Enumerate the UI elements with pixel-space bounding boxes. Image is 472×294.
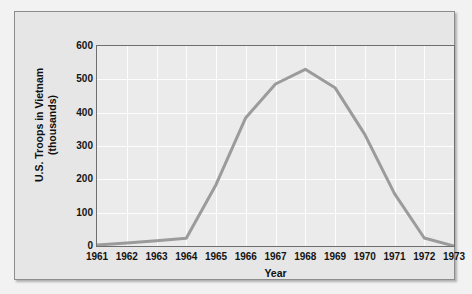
y-axis-title-line-1: U.S. Troops in Vietnam: [33, 68, 45, 182]
y-axis-tick-label: 200: [65, 174, 93, 184]
y-axis-title: U.S. Troops in Vietnam (thousands): [33, 35, 59, 215]
y-axis-tick-label: 300: [65, 141, 93, 151]
y-axis-title-line-2: (thousands): [46, 35, 59, 215]
y-axis-tick-label: 500: [65, 74, 93, 84]
y-axis-tick-label: 400: [65, 108, 93, 118]
x-axis-title: Year: [96, 267, 455, 279]
y-axis-tick-label: 0: [65, 241, 93, 251]
y-axis-tick-label: 600: [65, 41, 93, 51]
x-axis-tick-labels: 1961196219631964196519661967196819691970…: [96, 251, 455, 265]
y-axis-tick-label: 100: [65, 208, 93, 218]
plot-area: [96, 45, 455, 247]
x-axis-tick-label: 1973: [434, 251, 472, 262]
figure-canvas: 0100200300400500600 U.S. Troops in Vietn…: [0, 0, 472, 294]
line-series-svg: [97, 46, 454, 246]
series-line-us-troops: [97, 69, 454, 246]
y-axis-tick-labels: 0100200300400500600: [61, 45, 93, 247]
chart-frame: 0100200300400500600 U.S. Troops in Vietn…: [14, 11, 455, 280]
